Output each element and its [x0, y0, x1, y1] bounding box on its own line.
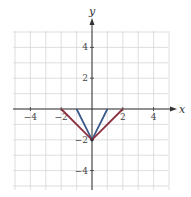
y-tick-label: −4 [75, 166, 89, 176]
vertex-point [90, 138, 93, 141]
y-tick-label: 4 [82, 42, 88, 52]
y-axis-label: y [88, 5, 96, 18]
x-tick-label: −4 [24, 112, 38, 122]
grid-lines [13, 31, 169, 190]
y-axis-arrow-icon [90, 18, 95, 25]
coordinate-plane: x y −4−22442−2−4 [0, 0, 191, 197]
x-tick-label: 4 [151, 112, 157, 122]
x-axis-label: x [179, 103, 186, 116]
x-tick-label: 2 [120, 112, 126, 122]
x-axis-arrow-icon [170, 107, 177, 112]
y-tick-label: 2 [82, 73, 88, 83]
axes: x y [13, 5, 186, 190]
y-tick-label: −2 [75, 135, 88, 145]
